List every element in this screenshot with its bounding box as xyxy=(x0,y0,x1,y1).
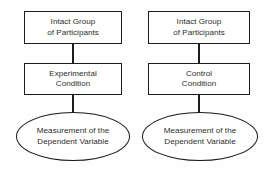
node-experimental-condition: Experimental Condition xyxy=(24,63,122,95)
node-text-line: Measurement of the xyxy=(37,126,109,136)
connector-intact-to-experimental xyxy=(72,43,74,64)
node-intact-group-control: Intact Group of Participants xyxy=(148,11,250,44)
node-text-line: Control xyxy=(186,69,212,79)
diagram-canvas: Intact Group of Participants Experimenta… xyxy=(0,0,268,179)
node-text-line: Experimental xyxy=(49,69,96,79)
node-text-line: Intact Group xyxy=(177,17,222,27)
node-text-line: Dependent Variable xyxy=(164,137,235,147)
node-text-line: Condition xyxy=(56,79,90,89)
node-text-line: Dependent Variable xyxy=(37,137,108,147)
connector-intact-to-control xyxy=(198,43,200,64)
node-measurement-dependent-variable-control: Measurement of the Dependent Variable xyxy=(142,112,258,161)
node-text-line: of Participants xyxy=(47,28,99,38)
node-text-line: Measurement of the xyxy=(164,126,236,136)
node-measurement-dependent-variable-experimental: Measurement of the Dependent Variable xyxy=(16,112,130,161)
node-intact-group-experimental: Intact Group of Participants xyxy=(24,11,122,44)
node-text-line: Intact Group xyxy=(51,17,96,27)
node-text-line: Condition xyxy=(182,79,216,89)
node-text-line: of Participants xyxy=(173,28,225,38)
node-control-condition: Control Condition xyxy=(148,63,250,95)
